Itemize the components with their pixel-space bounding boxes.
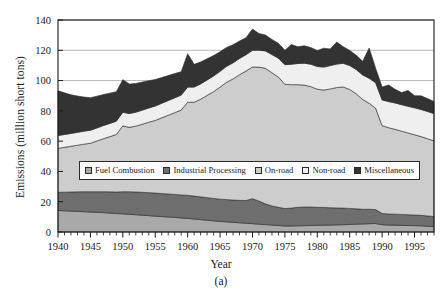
- legend-swatch-miscellaneous: [354, 167, 361, 174]
- svg-text:1945: 1945: [80, 241, 101, 250]
- figure-caption: (a): [0, 275, 442, 287]
- legend-label: Miscellaneous: [364, 166, 414, 175]
- svg-text:120: 120: [35, 45, 51, 56]
- svg-text:1960: 1960: [177, 241, 198, 250]
- legend-label: Industrial Processing: [173, 166, 245, 175]
- svg-text:1985: 1985: [339, 241, 360, 250]
- legend-entry: Industrial Processing: [163, 166, 245, 175]
- legend-entry: Fuel Combustion: [85, 166, 154, 175]
- svg-text:1990: 1990: [372, 241, 393, 250]
- svg-text:1970: 1970: [242, 241, 263, 250]
- svg-text:1955: 1955: [145, 241, 166, 250]
- svg-text:0: 0: [46, 227, 51, 238]
- svg-text:1940: 1940: [48, 241, 69, 250]
- legend-swatch-industrial-processing: [163, 167, 170, 174]
- svg-text:20: 20: [41, 197, 52, 208]
- x-axis-ticks: 1940194519501955196019651970197519801985…: [48, 232, 435, 250]
- svg-text:1965: 1965: [210, 241, 231, 250]
- legend-swatch-on-road: [255, 167, 262, 174]
- svg-text:1980: 1980: [307, 241, 328, 250]
- legend-entry: On-road: [255, 166, 294, 175]
- svg-text:60: 60: [41, 136, 52, 147]
- svg-text:40: 40: [41, 166, 52, 177]
- area-chart-plot: 020406080100120140 194019451950195519601…: [0, 0, 442, 250]
- svg-text:1975: 1975: [274, 241, 295, 250]
- svg-text:1995: 1995: [404, 241, 425, 250]
- legend-label: On-road: [265, 166, 294, 175]
- svg-text:140: 140: [35, 15, 51, 26]
- svg-text:80: 80: [41, 106, 52, 117]
- legend-swatch-fuel-combustion: [85, 167, 92, 174]
- legend-label: Fuel Combustion: [95, 166, 154, 175]
- svg-text:100: 100: [35, 75, 51, 86]
- legend-label: Non-road: [312, 166, 345, 175]
- figure-container: Emissions (million short tons) 020406080…: [0, 0, 442, 295]
- stacked-areas: [58, 29, 434, 232]
- svg-text:1950: 1950: [112, 241, 133, 250]
- legend-entry: Miscellaneous: [354, 166, 414, 175]
- x-axis-title: Year: [0, 258, 442, 270]
- legend-swatch-non-road: [302, 167, 309, 174]
- chart-legend: Fuel CombustionIndustrial ProcessingOn-r…: [79, 161, 420, 180]
- legend-entry: Non-road: [302, 166, 345, 175]
